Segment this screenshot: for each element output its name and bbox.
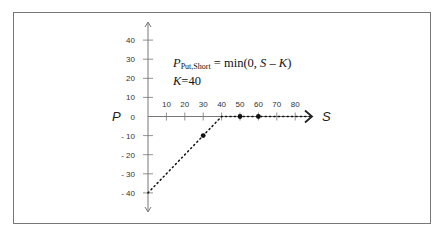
- x-tick-label: 40: [217, 100, 226, 109]
- y-tick-label: 0: [131, 113, 136, 122]
- y-tick-label: - 10: [121, 132, 135, 141]
- y-tick-label: 40: [126, 36, 135, 45]
- formula-subscript: Put,Short: [181, 62, 211, 71]
- formula-close: ): [287, 56, 291, 70]
- strike-value: =40: [181, 74, 201, 88]
- y-tick-label: - 40: [121, 189, 135, 198]
- x-tick-label: 80: [291, 100, 300, 109]
- series: [148, 114, 310, 193]
- formula-minus: –: [266, 56, 279, 70]
- y-tick-label: 10: [126, 93, 135, 102]
- x-tick-label: 20: [180, 100, 189, 109]
- data-point-marker: [238, 114, 243, 119]
- y-tick-label: 30: [126, 55, 135, 64]
- formula-k: K: [279, 56, 287, 70]
- formula-min: min(0,: [224, 56, 260, 70]
- x-axis-label: S: [322, 109, 331, 124]
- strike-line: K=40: [173, 74, 291, 88]
- x-tick-label: 50: [236, 100, 245, 109]
- y-axis-label: P: [112, 109, 121, 124]
- data-point-marker: [201, 133, 206, 138]
- x-tick-label: 70: [272, 100, 281, 109]
- formula-p-symbol: P: [173, 56, 181, 70]
- formula-line: PPut,Short = min(0, S – K): [173, 56, 291, 74]
- x-tick-label: 10: [162, 100, 171, 109]
- data-point-marker: [256, 114, 261, 119]
- payoff-line: [148, 117, 310, 193]
- y-tick-label: - 20: [121, 151, 135, 160]
- x-tick-label: 30: [199, 100, 208, 109]
- y-tick-label: 20: [126, 74, 135, 83]
- y-tick-label: - 30: [121, 170, 135, 179]
- x-tick-label: 60: [254, 100, 263, 109]
- formula-equals: =: [211, 56, 224, 70]
- payoff-chart: 1020304050607080403020100- 10- 20- 30- 4…: [0, 0, 444, 239]
- payoff-formula: PPut,Short = min(0, S – K) K=40: [173, 56, 291, 88]
